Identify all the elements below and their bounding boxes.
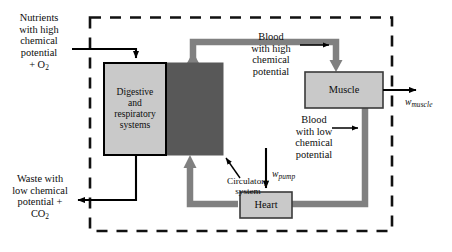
- w-muscle-label: wmuscle: [405, 96, 433, 109]
- blood-low-potential-label: Blood with low chemical potential: [286, 114, 342, 161]
- w-muscle-subscript: muscle: [411, 100, 432, 109]
- nutrients-input-label: Nutrients with high chemical potential +…: [6, 12, 72, 72]
- waste-output-arrow: [78, 156, 136, 200]
- nutrients-subscript: 2: [45, 63, 49, 72]
- waste-output-label: Waste with low chemical potential + CO2: [2, 173, 78, 221]
- nutrients-input-arrow: [72, 49, 136, 58]
- w-pump-subscript: pump: [278, 172, 295, 181]
- circulatory-system-pointer-arrow: [226, 158, 240, 178]
- waste-subscript: 2: [45, 212, 49, 221]
- w-pump-label: wpump: [272, 168, 295, 181]
- muscle-box: [305, 72, 383, 108]
- diagram-canvas: Nutrients with high chemical potential +…: [0, 0, 452, 252]
- circulatory-system-block: [165, 63, 223, 155]
- blood-high-potential-label: Blood with high chemical potential: [239, 31, 303, 78]
- digestive-respiratory-box: [104, 63, 166, 155]
